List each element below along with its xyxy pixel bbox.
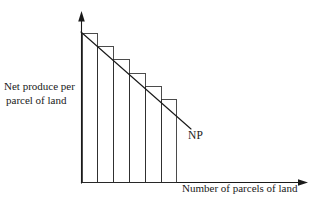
x-axis-label: Number of parcels of land (182, 181, 297, 195)
y-axis-label-line1: Net produce per (4, 80, 75, 92)
bar-group (82, 33, 177, 183)
bar-6 (161, 99, 177, 183)
y-axis-label: Net produce per parcel of land (4, 79, 78, 107)
np-curve-label: NP (188, 128, 203, 143)
bar-1 (82, 33, 98, 183)
y-axis (78, 11, 85, 183)
bar-2 (98, 46, 114, 183)
x-axis-arrowhead (298, 179, 308, 185)
net-produce-figure: Net produce per parcel of land Number of… (0, 0, 315, 197)
y-axis-arrowhead (78, 11, 85, 22)
bar-4 (129, 73, 145, 183)
bar-3 (114, 59, 130, 183)
y-axis-label-line2: parcel of land (4, 93, 78, 107)
